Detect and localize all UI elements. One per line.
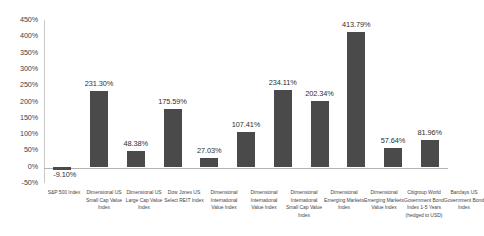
bar-value-label: 413.79% bbox=[342, 21, 370, 28]
bar-value-label: 234.11% bbox=[269, 79, 297, 86]
bar-group: 175.59% bbox=[154, 20, 191, 183]
bar-value-label: 231.30% bbox=[85, 80, 113, 87]
y-axis-tick-label: -50% bbox=[22, 179, 38, 186]
y-axis-tick-label: 200% bbox=[20, 98, 38, 105]
x-axis-category-label: Dimensional International Small Cap Valu… bbox=[284, 189, 324, 219]
bar[interactable] bbox=[347, 32, 365, 167]
bar[interactable] bbox=[311, 101, 329, 167]
x-axis-category-label: Citigroup World Government Bond Index 1-… bbox=[404, 189, 444, 219]
bar-group: 48.38% bbox=[117, 20, 154, 183]
bar-value-label: 57.64% bbox=[381, 137, 405, 144]
bar-value-label: 175.59% bbox=[158, 98, 186, 105]
bar[interactable] bbox=[384, 148, 402, 167]
y-axis-tick-label: 350% bbox=[20, 49, 38, 56]
bar[interactable] bbox=[200, 158, 218, 167]
bar-group: 107.41% bbox=[228, 20, 265, 183]
bar-group: 231.30% bbox=[81, 20, 118, 183]
y-axis-tick-label: 50% bbox=[24, 147, 38, 154]
bar[interactable] bbox=[274, 90, 292, 166]
bar-group: 57.64% bbox=[375, 20, 412, 183]
y-axis-tick-label: 0% bbox=[28, 163, 38, 170]
y-axis-tick-label: 300% bbox=[20, 65, 38, 72]
bar-value-label: 48.38% bbox=[124, 140, 148, 147]
bar-group: 27.03% bbox=[191, 20, 228, 183]
y-axis-tick-label: 450% bbox=[20, 16, 38, 23]
x-axis-category-label: Dimensional US Large Cap Value Index bbox=[124, 189, 164, 219]
x-axis-category-label: S&P 500 Index bbox=[44, 189, 84, 219]
x-axis-category-label: Dimensional US Small Cap Value Index bbox=[84, 189, 124, 219]
y-axis-tick-label: 150% bbox=[20, 114, 38, 121]
x-axis-category-label: Barclays US Government Bond Index bbox=[444, 189, 484, 219]
plot-area: -9.10%231.30%48.38%175.59%27.03%107.41%2… bbox=[44, 20, 448, 183]
bar-value-label: 27.03% bbox=[197, 147, 221, 154]
x-axis-category: Dimensional International Value Index bbox=[204, 189, 244, 219]
bar-value-label: -9.10% bbox=[53, 171, 76, 178]
x-axis-category-label: Dimensional International Value Index bbox=[244, 189, 284, 219]
x-axis-category: Dimensional US Large Cap Value Index bbox=[124, 189, 164, 219]
x-axis-category: Dimensional Emerging Markets Value Index bbox=[364, 189, 404, 219]
x-axis-category: Citigroup World Government Bond Index 1-… bbox=[404, 189, 444, 219]
bar-group: 234.11% bbox=[264, 20, 301, 183]
bar-value-label: 202.34% bbox=[305, 90, 333, 97]
x-axis-category: Dimensional US Small Cap Value Index bbox=[84, 189, 124, 219]
y-axis-tick-label: 100% bbox=[20, 130, 38, 137]
x-axis-category: Barclays US Government Bond Index bbox=[444, 189, 484, 219]
x-axis-category: Dimensional International Value Index bbox=[244, 189, 284, 219]
bar-group: 202.34% bbox=[301, 20, 338, 183]
bar[interactable] bbox=[127, 151, 145, 167]
bar[interactable] bbox=[164, 109, 182, 166]
bar[interactable] bbox=[90, 91, 108, 166]
bar-value-label: 81.96% bbox=[417, 129, 441, 136]
bar[interactable] bbox=[421, 140, 439, 167]
x-axis-category-label: Dimensional Emerging Markets Index bbox=[324, 189, 364, 219]
x-axis-category: Dimensional International Small Cap Valu… bbox=[284, 189, 324, 219]
x-axis-category-label: Dimensional International Value Index bbox=[204, 189, 244, 219]
x-axis-category: S&P 500 Index bbox=[44, 189, 84, 219]
x-axis-category: Dow Jones US Select REIT Index bbox=[164, 189, 204, 219]
y-axis-tick-label: 250% bbox=[20, 82, 38, 89]
y-axis: 450%400%350%300%250%200%150%100%50%0%-50… bbox=[0, 0, 42, 236]
x-axis-category-label: Dimensional Emerging Markets Value Index bbox=[364, 189, 404, 219]
y-axis-tick-label: 400% bbox=[20, 33, 38, 40]
bar-group: 81.96% bbox=[411, 20, 448, 183]
x-axis-category: Dimensional Emerging Markets Index bbox=[324, 189, 364, 219]
bar-value-label: 107.41% bbox=[232, 121, 260, 128]
bar[interactable] bbox=[237, 132, 255, 167]
bar-group: -9.10% bbox=[44, 20, 81, 183]
x-axis-category-labels: S&P 500 IndexDimensional US Small Cap Va… bbox=[44, 189, 448, 219]
x-axis-category-label: Dow Jones US Select REIT Index bbox=[164, 189, 204, 219]
bar-group: 413.79% bbox=[338, 20, 375, 183]
